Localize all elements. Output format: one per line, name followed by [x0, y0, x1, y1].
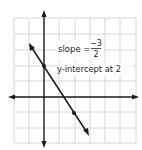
y-axis-up-arrow-icon: [42, 10, 47, 17]
grid: [14, 18, 136, 143]
graph: slope = −3 2 y-intercept at 2: [0, 0, 142, 150]
slope-numerator: −3: [90, 39, 102, 48]
x-axis: [8, 95, 139, 100]
y-axis-down-arrow-icon: [42, 141, 47, 148]
intercept-label: y-intercept at 2: [56, 63, 132, 75]
slope-label: slope = −3 2: [56, 39, 104, 60]
x-axis-left-arrow-icon: [8, 95, 15, 100]
y-intercept-point: [42, 64, 46, 68]
slope-denominator: 2: [93, 50, 98, 59]
line-arrow-lower-icon: [83, 128, 89, 136]
slope-prefix: slope =: [58, 44, 90, 54]
second-point: [72, 111, 76, 115]
intercept-text: y-intercept at 2: [57, 64, 121, 74]
y-axis: [42, 10, 47, 148]
